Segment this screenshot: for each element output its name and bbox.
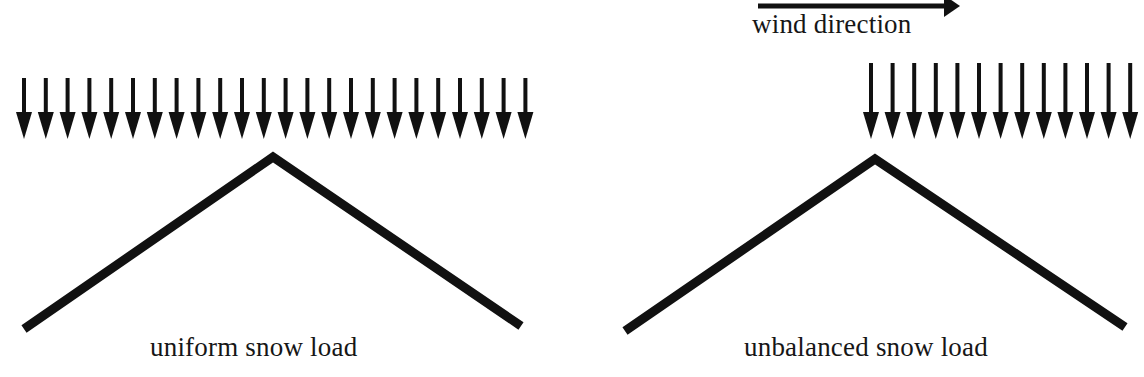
load-arrow-head [365,112,381,139]
load-arrow-shaft [912,63,916,114]
load-arrow-shaft [1020,63,1024,114]
load-arrow-head [321,112,337,139]
load-arrow-shaft [262,78,266,114]
load-arrow-shaft [1063,63,1067,114]
load-arrow-shaft [109,78,113,114]
load-arrow-head [408,112,424,139]
load-arrow-shaft [414,78,418,114]
load-arrow-head [949,112,965,139]
gable-roof-outline [625,159,1125,331]
load-arrow-head [234,112,250,139]
gable-roof-outline [24,157,521,329]
load-arrow-shaft [349,78,353,114]
load-arrow-shaft [502,78,506,114]
load-arrow-shaft [196,78,200,114]
load-arrow-shaft [66,78,70,114]
load-arrow-shaft [934,63,938,114]
load-arrow-head [387,112,403,139]
load-arrow-shaft [436,78,440,114]
load-arrow-head [430,112,446,139]
panel-uniform-snow-load: uniform snow load [0,0,560,377]
wind-arrow-shaft [758,4,944,9]
load-arrow-head [190,112,206,139]
load-arrow-head [993,112,1009,139]
load-arrow-shaft [284,78,288,114]
unbalanced-snow-load-arrows [863,63,1138,139]
load-arrow-head [1036,112,1052,139]
load-arrow-head [1101,112,1117,139]
uniform-load-drawing [0,0,560,377]
load-arrow-head [452,112,468,139]
load-arrow-shaft [131,78,135,114]
unbalanced-load-drawing [560,0,1144,377]
load-arrow-shaft [371,78,375,114]
uniform-snow-load-arrows [16,78,533,139]
load-arrow-head [474,112,490,139]
caption-uniform-snow-load: uniform snow load [150,332,357,363]
load-arrow-head [256,112,272,139]
load-arrow-shaft [218,78,222,114]
wind-arrow-head [944,0,960,17]
load-arrow-head [906,112,922,139]
load-arrow-head [343,112,359,139]
load-arrow-head [81,112,97,139]
load-arrow-head [212,112,228,139]
load-arrow-shaft [22,78,26,114]
load-arrow-head [1079,112,1095,139]
panel-unbalanced-snow-load: wind direction unbalanced snow load [560,0,1144,377]
load-arrow-shaft [1107,63,1111,114]
load-arrow-head [60,112,76,139]
load-arrow-shaft [153,78,157,114]
load-arrow-shaft [175,78,179,114]
load-arrow-head [496,112,512,139]
load-arrow-head [863,112,879,139]
load-arrow-shaft [955,63,959,114]
load-arrow-head [38,112,54,139]
load-arrow-shaft [1128,63,1132,114]
caption-unbalanced-snow-load: unbalanced snow load [744,332,988,363]
load-arrow-head [971,112,987,139]
load-arrow-shaft [999,63,1003,114]
load-arrow-head [517,112,533,139]
load-arrow-shaft [1042,63,1046,114]
load-arrow-head [278,112,294,139]
load-arrow-shaft [87,78,91,114]
load-arrow-shaft [458,78,462,114]
load-arrow-shaft [44,78,48,114]
load-arrow-head [885,112,901,139]
load-arrow-head [125,112,141,139]
load-arrow-head [928,112,944,139]
load-arrow-shaft [977,63,981,114]
load-arrow-shaft [1085,63,1089,114]
wind-direction-label: wind direction [752,9,912,40]
snow-load-figure: uniform snow load wind direction unbalan… [0,0,1144,377]
load-arrow-head [1014,112,1030,139]
load-arrow-head [299,112,315,139]
load-arrow-head [1122,112,1138,139]
load-arrow-head [169,112,185,139]
load-arrow-shaft [305,78,309,114]
load-arrow-head [16,112,32,139]
load-arrow-shaft [869,63,873,114]
load-arrow-shaft [523,78,527,114]
load-arrow-head [1057,112,1073,139]
load-arrow-shaft [240,78,244,114]
load-arrow-shaft [327,78,331,114]
load-arrow-shaft [393,78,397,114]
load-arrow-shaft [891,63,895,114]
load-arrow-head [147,112,163,139]
load-arrow-head [103,112,119,139]
load-arrow-shaft [480,78,484,114]
